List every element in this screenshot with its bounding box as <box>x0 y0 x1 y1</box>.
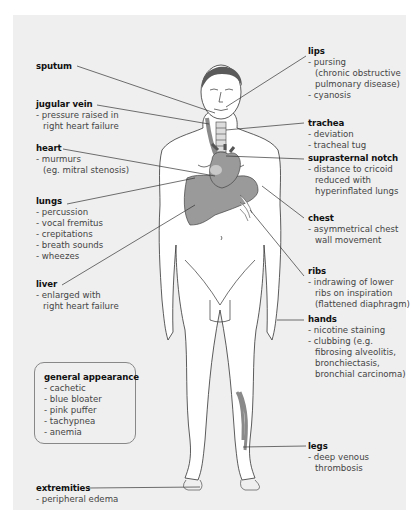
label-lips: lips - pursing (chronic obstructive pulm… <box>308 46 401 101</box>
label-extremities: extremities - peripheral edema <box>36 483 118 505</box>
label-jugular-vein: jugular vein - pressure raised in right … <box>36 99 119 132</box>
label-sputum: sputum <box>36 61 72 72</box>
label-trachea: trachea - deviation - tracheal tug <box>308 118 366 151</box>
label-liver: liver - enlarged with right heart failur… <box>36 279 119 312</box>
label-general-appearance: general appearance - cachetic - blue blo… <box>44 372 139 438</box>
label-suprasternal-notch: suprasternal notch - distance to cricoid… <box>308 153 398 197</box>
label-lungs: lungs - percussion - vocal fremitus - cr… <box>36 196 103 262</box>
label-heart: heart - murmurs (eg. mitral stenosis) <box>36 143 129 176</box>
label-chest: chest - asymmetrical chest wall movement <box>308 213 398 246</box>
label-hands: hands - nicotine staining - clubbing (e.… <box>308 314 406 380</box>
label-ribs: ribs - indrawing of lower ribs on inspir… <box>308 266 410 310</box>
label-legs: legs - deep venous thrombosis <box>308 441 369 474</box>
